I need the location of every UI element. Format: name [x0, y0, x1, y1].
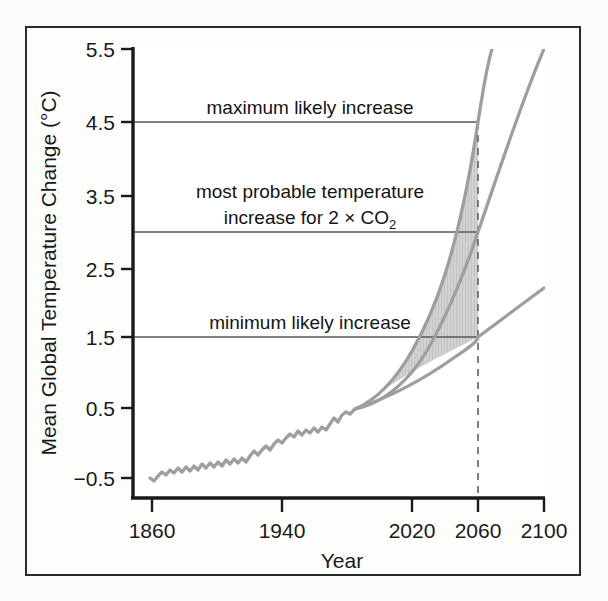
x-axis-ticks: [152, 498, 544, 512]
x-tick-label-2: 2020: [389, 519, 436, 542]
temperature-projection-chart: 5.5 4.5 3.5 2.5 1.5 0.5 −0.5 1860 1940 2…: [0, 0, 608, 601]
y-tick-label-3: 2.5: [86, 258, 115, 281]
y-axis-title: Mean Global Temperature Change (°C): [37, 90, 60, 455]
annotation-probable-line1: most probable temperature: [196, 181, 424, 202]
annotation-probable-co2: CO: [355, 207, 389, 228]
x-tick-label-3: 2060: [455, 519, 502, 542]
y-axis-ticks: [121, 49, 133, 478]
y-tick-label-1: 4.5: [86, 111, 115, 134]
annotation-minimum: minimum likely increase: [209, 312, 411, 333]
x-tick-label-0: 1860: [129, 519, 176, 542]
y-tick-label-5: 0.5: [86, 397, 115, 420]
annotation-co2-subscript: 2: [389, 217, 396, 232]
y-tick-label-6: −0.5: [74, 467, 115, 490]
x-axis-title: Year: [321, 549, 363, 572]
x-tick-label-4: 2100: [521, 519, 568, 542]
figure-container: 5.5 4.5 3.5 2.5 1.5 0.5 −0.5 1860 1940 2…: [0, 0, 608, 601]
y-tick-label-4: 1.5: [86, 326, 115, 349]
annotation-probable-prefix: increase for 2: [224, 207, 344, 228]
y-tick-label-2: 3.5: [86, 185, 115, 208]
y-tick-label-0: 5.5: [86, 38, 115, 61]
x-tick-label-1: 1940: [259, 519, 306, 542]
annotation-maximum: maximum likely increase: [207, 97, 414, 118]
annotation-multiply-icon: ×: [344, 207, 355, 228]
